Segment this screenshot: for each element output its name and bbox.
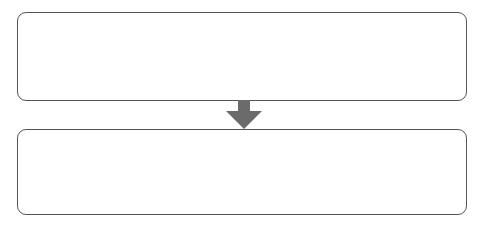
flow-box-bottom: [17, 129, 467, 215]
down-arrow-icon: [224, 100, 264, 130]
flow-box-top: [17, 12, 467, 101]
